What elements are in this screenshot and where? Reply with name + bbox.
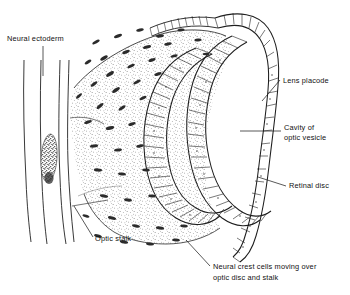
mesenchyme-stipple — [60, 20, 250, 255]
leader-optic-stalk — [74, 206, 93, 237]
leader-neural-crest — [186, 240, 210, 266]
eye-development-diagram: Neural ectoderm Optic stalk Lens placode… — [0, 0, 350, 295]
neural-ectoderm-tube — [24, 60, 74, 244]
label-optic-stalk: Optic stalk — [95, 234, 131, 245]
label-neural-ectoderm: Neural ectoderm — [7, 34, 64, 45]
label-neural-crest-cells-line1: Neural crest cells moving over — [213, 262, 317, 273]
label-cavity-of-optic-vesicle-line1: Cavity of — [284, 123, 314, 134]
label-cavity-of-optic-vesicle-line2: optic vesicle — [284, 133, 326, 144]
label-lens-placode: Lens placode — [283, 76, 329, 87]
label-retinal-disc: Retinal disc — [289, 181, 329, 192]
label-neural-crest-cells-line2: optic disc and stalk — [213, 273, 278, 284]
